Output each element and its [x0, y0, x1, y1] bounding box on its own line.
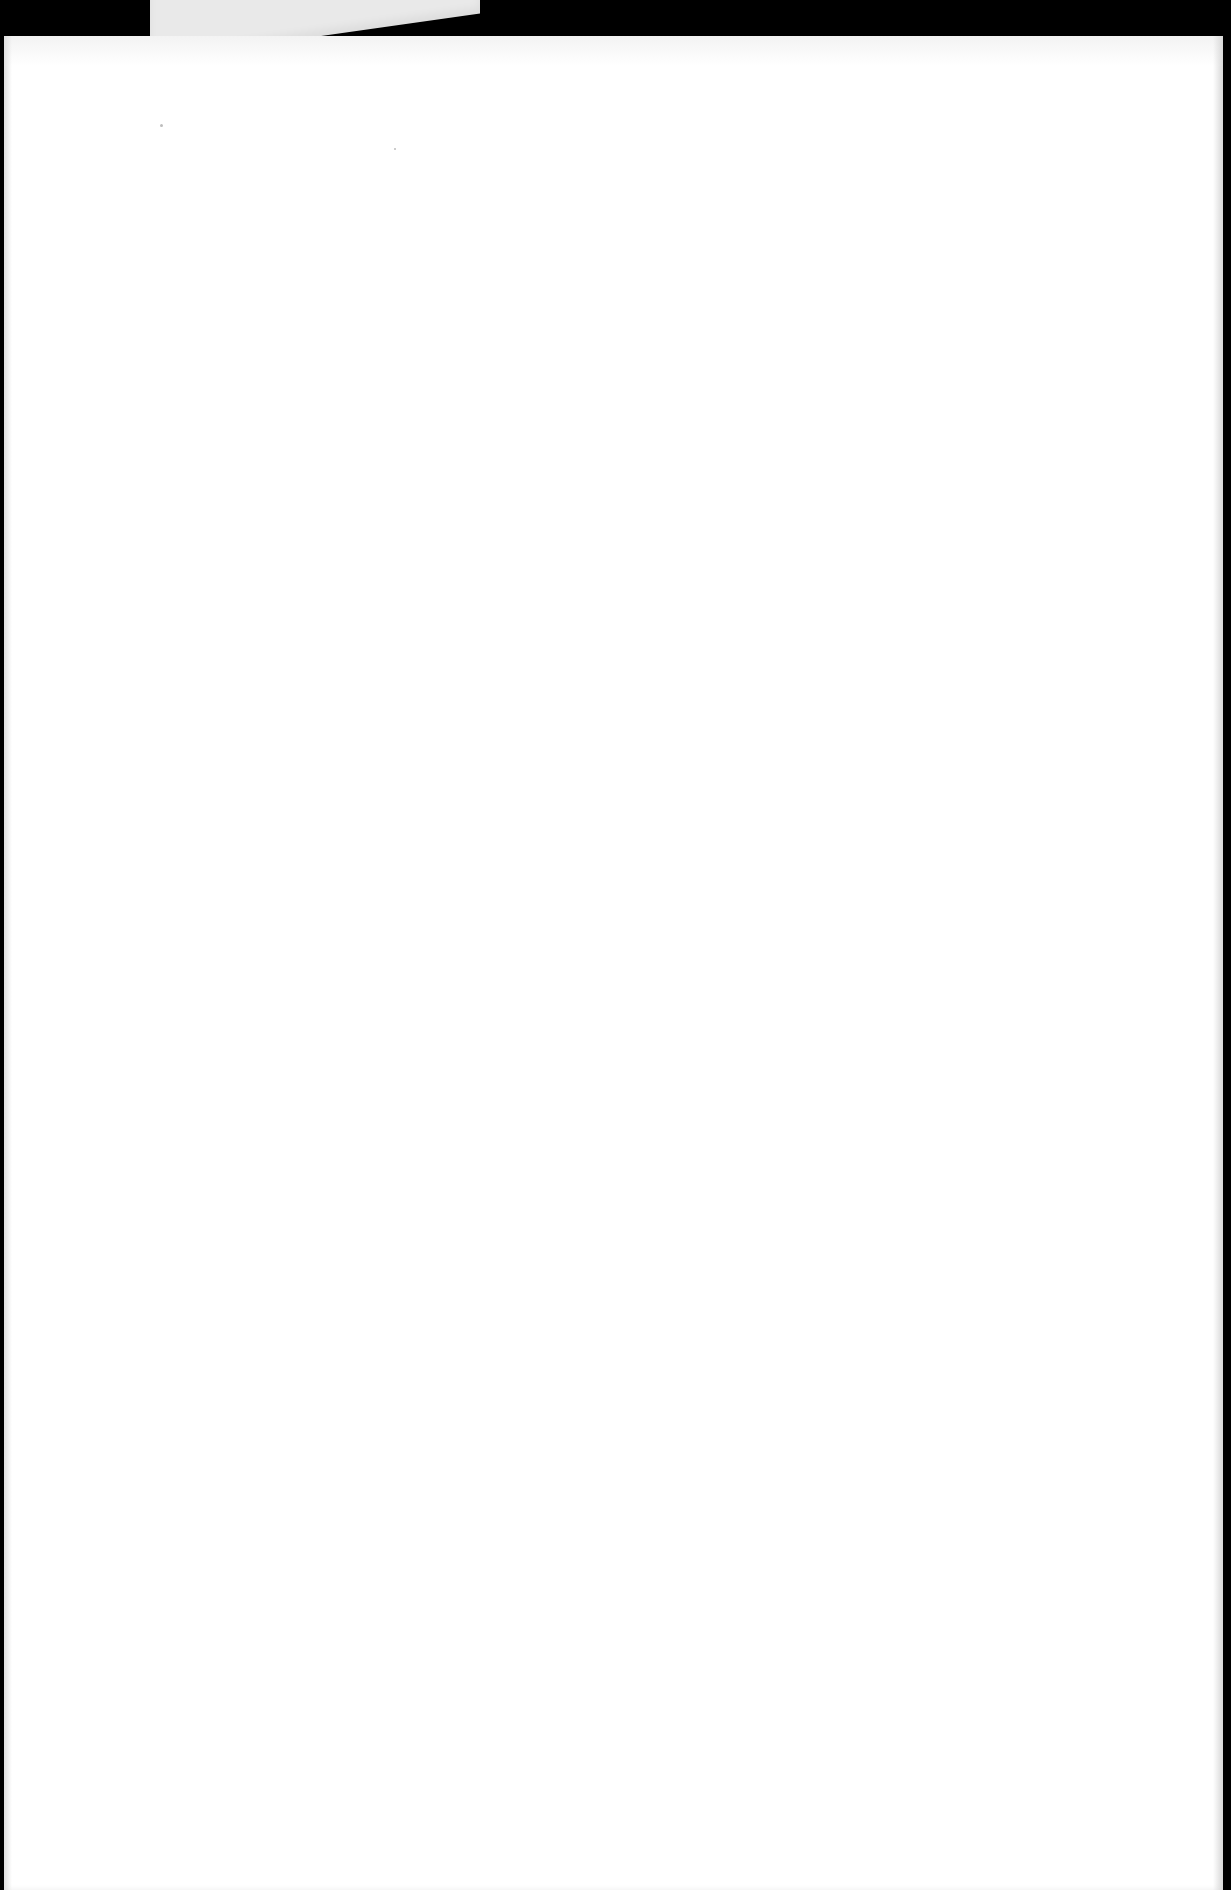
dust-speck: [160, 124, 163, 127]
scanned-document: [0, 0, 1231, 1890]
blank-page: [4, 36, 1223, 1890]
page-left-edge-shadow: [4, 36, 12, 1890]
page-right-edge-shadow: [1213, 36, 1223, 1890]
dust-speck: [394, 148, 396, 150]
